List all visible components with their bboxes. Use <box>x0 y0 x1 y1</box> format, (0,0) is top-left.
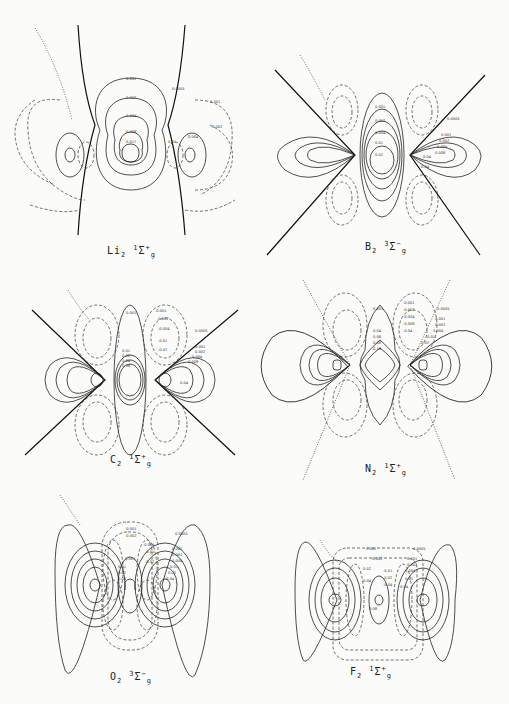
contour-label: -0.04 <box>383 583 393 587</box>
term-gerade: g <box>147 677 152 685</box>
contour-label: 0.0005 <box>172 87 185 91</box>
contour-label: 0.004 <box>126 114 137 118</box>
contour-label: 0.0005 <box>175 532 188 536</box>
term-symbol: Σ <box>135 454 142 465</box>
panel-b2: 0.001 0.002 0.004 0.01 0.02 0.04 0.0005 … <box>255 50 509 270</box>
contour-label: 0.02 <box>375 153 383 157</box>
contour-label: 0.002 <box>126 96 136 100</box>
molecule-symbol: C <box>110 454 117 465</box>
contour-label: 0.0005 <box>447 117 460 121</box>
contour-label: 0.001 <box>125 557 135 561</box>
contour-label: 0.002 <box>435 323 445 327</box>
contour-label: -0.004 <box>403 315 415 319</box>
contour-label: 0.08 <box>373 341 382 345</box>
panel-li2: 0.001 0.002 0.004 0.008 0.017 0.0005 0.0… <box>0 0 255 245</box>
term-gerade: g <box>402 247 407 255</box>
term-gerade: g <box>387 672 392 680</box>
contour-label: 0.04 <box>122 359 131 363</box>
contour-label: 0.08 <box>369 607 378 611</box>
panel-n2: 0.001 0.04 0.06 0.08 0.16 -0.001 -0.002 … <box>255 280 509 470</box>
panel-caption: C2 1Σ+g <box>110 453 152 468</box>
contour-label: 0.008 <box>126 130 137 134</box>
contour-label: -0.002 <box>371 557 383 561</box>
molecule-symbol: Li <box>107 245 121 256</box>
panel-o2: -0.001 -0.002 -0.004 -0.01 -0.02 0.001 0… <box>0 490 255 700</box>
o2-contour-map: -0.001 -0.002 -0.004 -0.01 -0.02 0.001 0… <box>0 490 255 700</box>
contour-label: 0.02 <box>168 571 176 575</box>
panel-caption: O2 3Σ−g <box>110 670 152 685</box>
contour-label: -0.008 <box>403 322 415 326</box>
contour-label: 0.04 <box>423 155 432 159</box>
molecule-symbol: O <box>110 671 117 682</box>
contour-label: 0.001 <box>210 100 220 104</box>
term-symbol: Σ <box>139 245 146 256</box>
term-gerade: g <box>147 460 152 468</box>
contour-label: 0.001 <box>172 547 182 551</box>
contour-label: -0.004 <box>143 543 155 547</box>
contour-label: 0.004 <box>192 355 203 359</box>
contour-label: 0.01 <box>405 577 413 581</box>
contour-label: 0.06 <box>373 335 382 339</box>
contour-label: 0.001 <box>126 311 136 315</box>
panel-caption: B2 3Σ−g <box>365 240 407 255</box>
contour-label: -0.004 <box>158 327 170 331</box>
b2-contour-map: 0.001 0.002 0.004 0.01 0.02 0.04 0.0005 … <box>255 50 509 270</box>
li2-contour-map: 0.001 0.002 0.004 0.008 0.017 0.0005 0.0… <box>0 0 255 245</box>
contour-label: 0.004 <box>188 135 199 139</box>
contour-label: 0.04 <box>166 577 175 581</box>
term-symbol: Σ <box>390 463 397 474</box>
contour-label: -0.01 <box>145 550 154 554</box>
panel-caption: F2 1Σ+g <box>350 665 392 680</box>
contour-label: -0.02 <box>145 560 154 564</box>
contour-label: 0.0005 <box>195 329 208 333</box>
contour-label: 0.08 <box>122 364 131 368</box>
contour-label: 0.04 <box>180 381 189 385</box>
molecule-symbol: F <box>350 666 357 677</box>
n2-contour-map: 0.001 0.04 0.06 0.08 0.16 -0.001 -0.002 … <box>255 280 509 470</box>
contour-label: 0.01 <box>122 349 130 353</box>
term-gerade: g <box>402 469 407 477</box>
contour-label: 0.004 <box>433 329 444 333</box>
atom-count: 2 <box>357 672 362 680</box>
contour-label: 0.001 <box>375 105 385 109</box>
contour-label: -0.001 <box>125 527 137 531</box>
contour-label: 0.02 <box>363 567 371 571</box>
molecule-symbol: B <box>365 241 372 252</box>
contour-label: 0.04 <box>400 585 409 589</box>
contour-label: -0.002 <box>157 317 169 321</box>
contour-label: 0.004 <box>172 559 183 563</box>
contour-label: 0.002 <box>212 125 222 129</box>
contour-label: -0.02 <box>158 348 167 352</box>
contour-label: 0.001 <box>435 317 445 321</box>
contour-label: 0.002 <box>172 553 182 557</box>
contour-label: -0.001 <box>403 301 415 305</box>
term-symbol: Σ <box>375 666 382 677</box>
atom-count: 2 <box>117 677 122 685</box>
contour-label: 0.01 <box>427 335 435 339</box>
contour-label: 0.02 <box>122 354 130 358</box>
term-gerade: g <box>151 251 156 259</box>
contour-label: -0.002 <box>125 534 137 538</box>
contour-label: -0.001 <box>155 309 167 313</box>
contour-label: 0.002 <box>195 350 205 354</box>
contour-label: 0.01 <box>118 565 126 569</box>
contour-label: 0.002 <box>407 563 417 567</box>
contour-label: -0.04 <box>403 329 413 333</box>
contour-label: 0.001 <box>373 307 383 311</box>
panel-caption: N2 1Σ+g <box>365 462 407 477</box>
contour-label: 0.001 <box>195 345 205 349</box>
contour-label: -0.02 <box>383 576 392 580</box>
contour-label: 0.008 <box>435 151 446 155</box>
contour-label: 0.001 <box>407 557 417 561</box>
contour-label: 0.04 <box>118 577 127 581</box>
c2-contour-map: 0.001 0.01 0.02 0.04 0.08 -0.001 -0.002 … <box>0 290 255 470</box>
contour-label: 0.004 <box>437 145 448 149</box>
atom-count: 2 <box>372 247 377 255</box>
term-symbol: Σ <box>390 241 397 252</box>
contour-label: 0.004 <box>375 131 386 135</box>
contour-label: 0.02 <box>421 341 429 345</box>
contour-label: 0.01 <box>168 140 176 144</box>
term-symbol: Σ <box>135 671 142 682</box>
contour-label: 0.002 <box>439 139 449 143</box>
contour-label: -0.01 <box>158 339 167 343</box>
